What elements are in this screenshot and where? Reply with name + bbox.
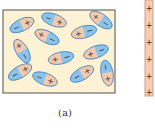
charged-plate: ++++++	[145, 0, 153, 97]
plate-positive-sign-icon: +	[146, 55, 153, 64]
plate-positive-sign-icon: +	[146, 4, 153, 13]
plate-positive-sign-icon: +	[146, 72, 153, 81]
plate-positive-sign-icon: +	[146, 88, 153, 97]
plate-positive-sign-icon: +	[146, 38, 153, 47]
plate-positive-sign-icon: +	[146, 21, 153, 30]
figure-caption: (a)	[50, 107, 80, 118]
